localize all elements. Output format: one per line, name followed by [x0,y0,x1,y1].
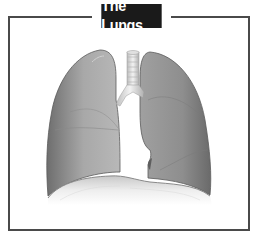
right-lung [140,52,211,195]
lungs-illustration [0,0,257,236]
left-lung [47,50,120,196]
trachea [127,51,139,89]
